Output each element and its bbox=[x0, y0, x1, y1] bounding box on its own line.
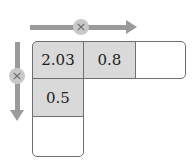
cell-col-2: 0.5 bbox=[32, 78, 84, 117]
right-arrow-icon bbox=[126, 20, 137, 34]
cell-start: 2.03 bbox=[32, 41, 84, 79]
multiply-icon-horizontal: × bbox=[73, 19, 89, 35]
multiply-icon-vertical: × bbox=[9, 68, 25, 84]
cell-row-2: 0.8 bbox=[83, 41, 136, 79]
down-arrow-icon bbox=[10, 110, 24, 121]
cell-col-answer[interactable] bbox=[32, 116, 84, 157]
cell-row-answer[interactable] bbox=[135, 41, 186, 79]
